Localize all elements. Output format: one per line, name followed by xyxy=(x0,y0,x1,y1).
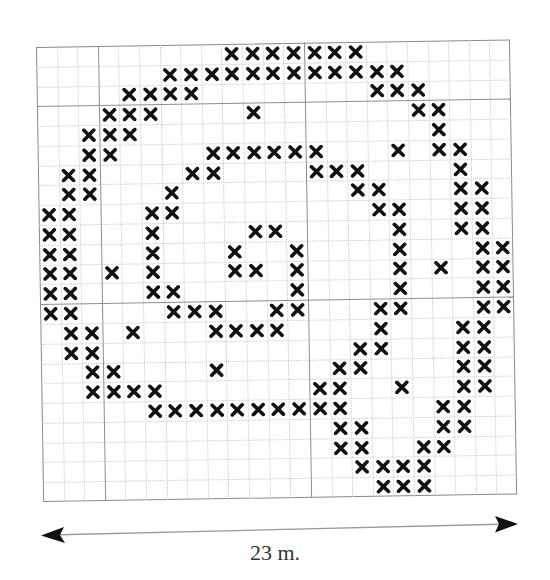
x-mark-icon xyxy=(99,125,120,145)
x-mark-icon xyxy=(202,143,223,163)
x-mark-icon xyxy=(103,362,124,382)
x-mark-icon xyxy=(413,436,434,456)
x-mark-icon xyxy=(142,223,163,243)
x-mark-icon xyxy=(226,321,247,341)
x-mark-icon xyxy=(184,302,205,322)
x-mark-icon xyxy=(452,317,473,337)
x-mark-icon xyxy=(325,62,346,82)
x-mark-icon xyxy=(472,238,493,258)
x-mark-icon xyxy=(60,244,81,264)
x-mark-icon xyxy=(350,339,371,359)
x-mark-icon xyxy=(99,145,120,165)
x-mark-icon xyxy=(201,64,222,84)
x-mark-icon xyxy=(165,401,186,421)
x-mark-icon xyxy=(59,224,80,244)
x-mark-icon xyxy=(392,377,413,397)
x-mark-icon xyxy=(61,343,82,363)
x-mark-icon xyxy=(245,261,266,281)
x-mark-icon xyxy=(368,200,389,220)
x-mark-icon xyxy=(61,303,82,323)
x-mark-icon xyxy=(265,221,286,241)
x-mark-icon xyxy=(390,279,411,299)
x-mark-icon xyxy=(82,382,103,402)
x-mark-icon xyxy=(451,198,472,218)
x-mark-icon xyxy=(78,125,99,145)
x-mark-icon xyxy=(368,180,389,200)
x-mark-icon xyxy=(471,198,492,218)
x-mark-icon xyxy=(306,161,327,181)
x-mark-icon xyxy=(142,203,163,223)
x-mark-icon xyxy=(472,257,493,277)
x-mark-icon xyxy=(263,43,284,63)
x-mark-icon xyxy=(388,140,409,160)
x-mark-icon xyxy=(366,61,387,81)
x-mark-icon xyxy=(203,163,224,183)
x-mark-icon xyxy=(326,161,347,181)
x-mark-icon xyxy=(160,65,181,85)
x-mark-icon xyxy=(304,62,325,82)
x-mark-icon xyxy=(160,84,181,104)
x-mark-icon xyxy=(58,165,79,185)
x-mark-icon xyxy=(181,64,202,84)
x-mark-icon xyxy=(38,205,59,225)
x-mark-icon xyxy=(450,139,471,159)
x-mark-icon xyxy=(186,400,207,420)
x-mark-icon xyxy=(242,63,263,83)
x-mark-icon xyxy=(103,382,124,402)
x-mark-icon xyxy=(387,61,408,81)
x-mark-icon xyxy=(366,81,387,101)
x-mark-icon xyxy=(163,282,184,302)
x-mark-icon xyxy=(330,418,351,438)
x-mark-icon xyxy=(389,199,410,219)
x-mark-icon xyxy=(123,322,144,342)
x-mark-icon xyxy=(330,378,351,398)
x-mark-icon xyxy=(283,43,304,63)
x-mark-icon xyxy=(370,299,391,319)
x-mark-icon xyxy=(352,457,373,477)
x-mark-icon xyxy=(351,418,372,438)
x-mark-icon xyxy=(429,139,450,159)
x-mark-icon xyxy=(408,100,429,120)
x-mark-icon xyxy=(140,85,161,105)
x-mark-icon xyxy=(40,284,61,304)
x-mark-icon xyxy=(79,165,100,185)
x-mark-icon xyxy=(225,242,246,262)
x-mark-icon xyxy=(431,258,452,278)
x-mark-icon xyxy=(223,143,244,163)
x-mark-icon xyxy=(60,284,81,304)
x-mark-icon xyxy=(304,42,325,62)
x-mark-icon xyxy=(205,321,226,341)
grid-diagram xyxy=(36,40,517,502)
x-mark-icon xyxy=(101,263,122,283)
x-mark-icon xyxy=(287,280,308,300)
x-mark-icon xyxy=(433,416,454,436)
x-mark-icon xyxy=(120,124,141,144)
x-mark-icon xyxy=(453,357,474,377)
x-mark-icon xyxy=(39,225,60,245)
x-mark-icon xyxy=(143,282,164,302)
x-mark-icon xyxy=(284,63,305,83)
x-mark-icon xyxy=(99,105,120,125)
x-mark-icon xyxy=(471,178,492,198)
x-mark-icon xyxy=(408,80,429,100)
x-mark-icon xyxy=(181,84,202,104)
x-mark-icon xyxy=(434,436,455,456)
x-mark-icon xyxy=(162,203,183,223)
x-mark-icon xyxy=(389,239,410,259)
x-mark-icon xyxy=(351,437,372,457)
x-mark-icon xyxy=(142,243,163,263)
x-mark-icon xyxy=(221,44,242,64)
x-mark-icon xyxy=(387,81,408,101)
x-mark-icon xyxy=(454,416,475,436)
x-mark-icon xyxy=(267,320,288,340)
x-mark-icon xyxy=(347,160,368,180)
x-mark-icon xyxy=(453,337,474,357)
x-mark-icon xyxy=(474,356,495,376)
x-mark-icon xyxy=(205,301,226,321)
x-mark-icon xyxy=(370,338,391,358)
x-mark-icon xyxy=(140,104,161,124)
x-mark-icon xyxy=(243,103,264,123)
x-mark-icon xyxy=(473,337,494,357)
x-mark-icon xyxy=(472,277,493,297)
dimension-label: 23 m. xyxy=(0,540,550,566)
